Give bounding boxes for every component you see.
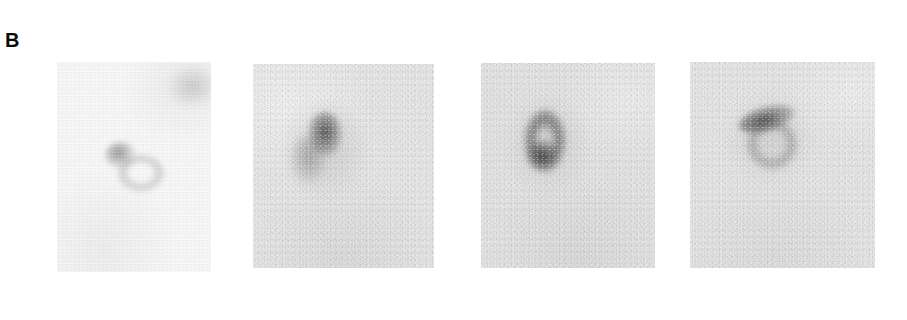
blot-panel-4: [690, 62, 875, 268]
blot-4-spot-halo: [722, 92, 818, 188]
blot-3-spot-ring: [523, 109, 567, 173]
figure-panel-b: B: [0, 0, 907, 320]
blot-panel-2: [253, 64, 434, 268]
blot-2-spot-halo: [281, 100, 367, 200]
film-grain-texture: [57, 62, 211, 272]
blot-2-spot-core: [308, 112, 342, 156]
blot-image-row: [0, 0, 907, 320]
blot-1-spot-ring: [117, 154, 165, 192]
blot-panel-1: [57, 62, 211, 272]
blot-4-spot-bar: [736, 99, 799, 140]
blot-panel-3: [481, 63, 655, 268]
film-grain-texture: [253, 64, 434, 268]
blot-4-spot-ring: [746, 118, 798, 170]
film-grain-texture: [481, 63, 655, 268]
film-grain-texture: [690, 62, 875, 268]
blot-1-spot-smudge: [167, 64, 211, 108]
blot-1-spot-main: [105, 142, 135, 168]
blot-3-spot-core: [527, 139, 559, 171]
blot-2-spot-tail: [289, 136, 325, 186]
blot-3-spot-halo: [503, 93, 591, 197]
